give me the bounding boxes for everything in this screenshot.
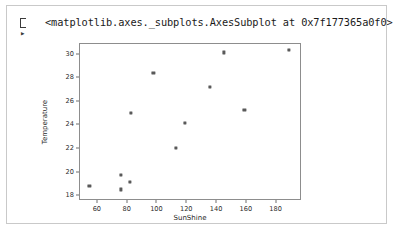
y-axis-label: Temperature	[41, 99, 49, 143]
x-tick-label: 140	[210, 205, 223, 213]
x-tick-label: 160	[240, 205, 253, 213]
y-tick-mark	[76, 195, 79, 196]
x-tick-mark	[275, 200, 276, 203]
x-tick-mark	[216, 200, 217, 203]
axes-repr-text: <matplotlib.axes._subplots.AxesSubplot a…	[45, 16, 393, 28]
x-tick-label: 120	[180, 205, 193, 213]
y-tick-label: 30	[57, 50, 74, 58]
y-tick-mark	[76, 124, 79, 125]
x-axis-label: SunShine	[174, 214, 207, 222]
y-tick-label: 26	[57, 97, 74, 105]
x-tick-mark	[245, 200, 246, 203]
scatter-point	[222, 51, 225, 54]
matplotlib-figure: 6080100120140160180 18202224262830 SunSh…	[13, 32, 343, 222]
scatter-point	[128, 181, 131, 184]
scatter-point	[287, 48, 290, 51]
scatter-point	[119, 174, 122, 177]
screen: ▸ <matplotlib.axes._subplots.AxesSubplot…	[0, 0, 397, 232]
y-tick-mark	[76, 148, 79, 149]
scatter-point	[119, 188, 122, 191]
y-tick-label: 18	[57, 191, 74, 199]
bracket-glyph	[20, 18, 26, 28]
y-tick-mark	[76, 53, 79, 54]
x-tick-mark	[96, 200, 97, 203]
scatter-point	[130, 111, 133, 114]
y-tick-label: 24	[57, 120, 74, 128]
plot-axes-area	[79, 43, 301, 200]
scatter-point	[243, 109, 246, 112]
scatter-point	[174, 146, 177, 149]
x-tick-label: 100	[150, 205, 163, 213]
scatter-point	[88, 184, 91, 187]
x-tick-mark	[156, 200, 157, 203]
x-tick-label: 180	[269, 205, 282, 213]
y-tick-label: 28	[57, 73, 74, 81]
y-tick-mark	[76, 100, 79, 101]
x-tick-mark	[126, 200, 127, 203]
y-tick-label: 20	[57, 168, 74, 176]
output-prompt-icon: ▸	[20, 18, 31, 29]
scatter-point	[152, 71, 155, 74]
x-tick-label: 60	[93, 205, 101, 213]
x-tick-label: 80	[122, 205, 130, 213]
scatter-point	[209, 85, 212, 88]
y-tick-mark	[76, 77, 79, 78]
y-tick-label: 22	[57, 144, 74, 152]
scatter-point	[183, 122, 186, 125]
notebook-output-cell: ▸ <matplotlib.axes._subplots.AxesSubplot…	[6, 5, 387, 224]
y-tick-mark	[76, 171, 79, 172]
x-tick-mark	[186, 200, 187, 203]
